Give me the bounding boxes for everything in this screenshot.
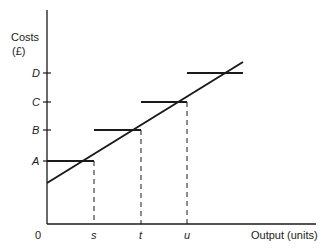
y-tick-label-d: D <box>32 67 40 79</box>
step-cost-chart: Costs (£) D C B A 0 s t u Output (units) <box>0 0 335 252</box>
origin-label: 0 <box>35 229 41 241</box>
y-axis-unit: (£) <box>12 45 25 57</box>
x-tick-label-t: t <box>139 229 143 241</box>
y-tick-label-c: C <box>32 96 40 108</box>
x-tick-label-u: u <box>184 229 190 241</box>
y-axis-label: Costs <box>11 31 40 43</box>
linear-cost-line <box>47 62 243 183</box>
y-tick-label-a: A <box>31 155 39 167</box>
x-tick-label-s: s <box>91 229 97 241</box>
y-tick-label-b: B <box>32 124 39 136</box>
x-axis-label: Output (units) <box>251 229 318 241</box>
